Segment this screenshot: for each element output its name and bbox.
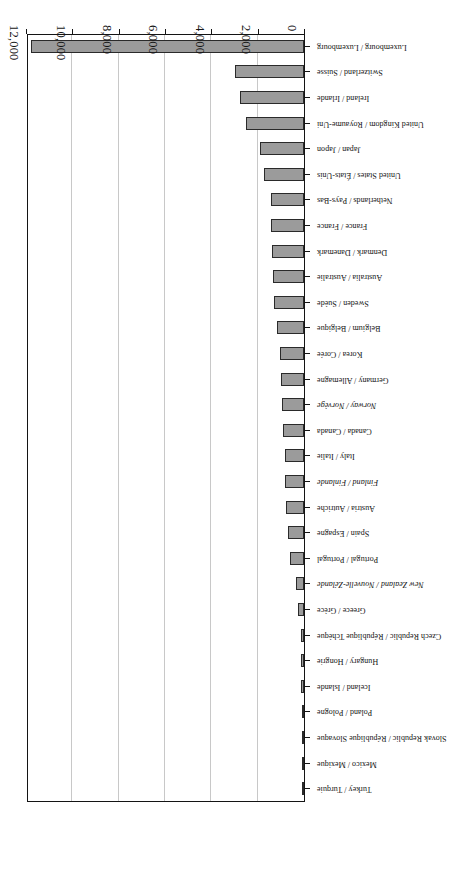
- value-axis-tick-label: 12,000: [7, 25, 22, 61]
- bar: [302, 782, 304, 795]
- category-axis-tick: [305, 97, 310, 98]
- category-axis-label: Norway / Norvège: [317, 401, 475, 410]
- category-axis-tick: [305, 455, 310, 456]
- category-axis-label: Italy / Italie: [317, 452, 475, 461]
- category-axis-label: Portugal / Portugal: [317, 555, 475, 564]
- bar-row: [26, 369, 304, 389]
- category-axis-label: Switzerland / Suisse: [317, 68, 475, 77]
- bar: [282, 398, 304, 411]
- category-axis-label: United States / États-Unis: [317, 171, 475, 180]
- bar-row: [26, 497, 304, 517]
- category-axis-tick: [305, 660, 310, 661]
- category-axis-label: Belgium / Belgique: [317, 324, 475, 333]
- bar-row: [26, 548, 304, 568]
- category-axis-label: Sweden / Suède: [317, 299, 475, 308]
- bar-row: [26, 87, 304, 107]
- bar: [302, 757, 304, 770]
- bar: [246, 117, 304, 130]
- category-axis-tick: [305, 737, 310, 738]
- value-axis-tick-label: 2,000: [238, 25, 253, 54]
- bar: [235, 65, 304, 78]
- bar-row: [26, 420, 304, 440]
- bar-row: [26, 266, 304, 286]
- value-axis-tick: [258, 29, 259, 34]
- category-axis-tick: [305, 711, 310, 712]
- value-axis-tick-label: 10,000: [53, 25, 68, 61]
- bar-row: [26, 164, 304, 184]
- category-axis-label: New Zealand / Nouvelle-Zélande: [317, 580, 475, 589]
- bar-row: [26, 394, 304, 414]
- bar: [288, 526, 304, 539]
- bar-row: [26, 573, 304, 593]
- bar-row: [26, 650, 304, 670]
- bar: [240, 91, 304, 104]
- bar: [285, 449, 304, 462]
- bar: [273, 270, 304, 283]
- bar: [280, 347, 304, 360]
- bar: [301, 680, 304, 693]
- category-axis-tick: [305, 353, 310, 354]
- category-axis-tick: [305, 532, 310, 533]
- category-axis-tick: [305, 71, 310, 72]
- category-axis-tick: [305, 225, 310, 226]
- rotated-figure-container: 02,0004,0006,0008,00010,00012,000 Luxemb…: [0, 0, 475, 890]
- bar: [302, 705, 304, 718]
- bar-row: [26, 292, 304, 312]
- category-axis-label: Austria / Autriche: [317, 504, 475, 513]
- category-axis-tick: [305, 430, 310, 431]
- category-axis-label: Poland / Pologne: [317, 708, 475, 717]
- bar: [301, 654, 304, 667]
- category-axis-tick: [305, 583, 310, 584]
- category-axis-tick: [305, 276, 310, 277]
- value-axis-tick: [165, 29, 166, 34]
- bar-row: [26, 522, 304, 542]
- bar: [274, 296, 304, 309]
- category-axis-label: Turkey / Turquie: [317, 785, 475, 794]
- bar: [298, 603, 304, 616]
- category-axis-label: Luxembourg / Luxembourg: [317, 43, 475, 52]
- category-axis-tick: [305, 404, 310, 405]
- category-axis-tick: [305, 174, 310, 175]
- bar-row: [26, 317, 304, 337]
- bar-row: [26, 701, 304, 721]
- category-axis-label: Korea / Corée: [317, 350, 475, 359]
- value-axis-tick-label: 8,000: [99, 25, 114, 54]
- bar: [277, 321, 304, 334]
- bar: [271, 193, 304, 206]
- category-axis-label: Iceland / Islande: [317, 683, 475, 692]
- bar-row: [26, 241, 304, 261]
- bar: [285, 475, 304, 488]
- bar-row: [26, 343, 304, 363]
- category-axis-label: United Kingdom / Royaume-Uni: [317, 120, 475, 129]
- bar: [301, 629, 304, 642]
- value-axis-tick: [72, 29, 73, 34]
- value-axis-tick-label: 6,000: [146, 25, 161, 54]
- bar: [264, 168, 304, 181]
- category-axis-tick: [305, 251, 310, 252]
- category-axis-label: Finland / Finlande: [317, 478, 475, 487]
- bar-row: [26, 215, 304, 235]
- bar: [283, 424, 304, 437]
- bar-row: [26, 471, 304, 491]
- value-axis-tick: [211, 29, 212, 34]
- bar-row: [26, 138, 304, 158]
- bar: [286, 501, 304, 514]
- bar-row: [26, 113, 304, 133]
- category-axis-tick: [305, 379, 310, 380]
- bar: [290, 552, 304, 565]
- category-axis-tick: [305, 46, 310, 47]
- bar: [281, 373, 304, 386]
- bar: [272, 245, 304, 258]
- category-axis-label: Slovak Republic / République Slovaque: [317, 734, 475, 743]
- category-axis-label: Ireland / Irlande: [317, 94, 475, 103]
- bar: [296, 577, 304, 590]
- category-axis-tick: [305, 788, 310, 789]
- bar: [260, 142, 304, 155]
- value-axis-tick: [26, 29, 27, 34]
- category-axis-tick: [305, 148, 310, 149]
- category-axis-label: Canada / Canada: [317, 427, 475, 436]
- category-axis-label: Australia / Australie: [317, 273, 475, 282]
- value-axis-tick-label: 0: [285, 25, 300, 31]
- bar-row: [26, 189, 304, 209]
- category-axis-label: Germany / Allemagne: [317, 376, 475, 385]
